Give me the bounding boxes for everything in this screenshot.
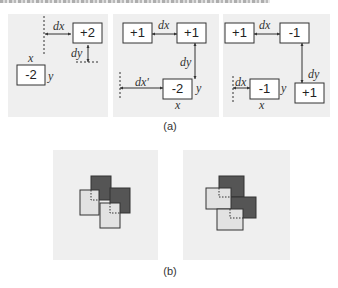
caption-b: (b) [150,265,190,277]
panel-b-1 [53,150,158,260]
dx-prime-label: dx' [135,75,149,90]
dx-label: dx [53,19,64,34]
x-label: x [175,98,180,113]
panel-b-2 [183,150,290,260]
box-value: -2 [163,81,192,96]
box-value: +1 [295,85,324,100]
y-label: y [281,81,286,96]
dy-label: dy [308,67,319,82]
y-label: y [48,69,53,84]
dx-label: dx [259,18,270,33]
y-label: y [196,81,201,96]
dy-label: dy [180,55,191,70]
panel-a-2: +1 +1 -2 dx dy dx' x y [113,14,219,117]
box-value: -2 [17,67,45,82]
box-value: +1 [123,25,152,40]
panel-a-3: +1 -1 -1 +1 dx dy dx x y [223,14,330,117]
dx-label: dx [158,18,169,33]
dy-label: dy [71,46,82,61]
box-value: -1 [280,25,309,40]
box-value: +2 [73,25,102,40]
cut-off-text-line [0,0,338,5]
box-value: +1 [225,25,254,40]
caption-a: (a) [150,120,190,132]
box-value: -1 [250,81,279,96]
dx-label-lower: dx [235,75,246,90]
box-value: +1 [177,25,206,40]
x-label: x [28,51,33,66]
x-label: x [259,98,264,113]
panel-a-1: +2 -2 dx dy x y [8,14,108,117]
